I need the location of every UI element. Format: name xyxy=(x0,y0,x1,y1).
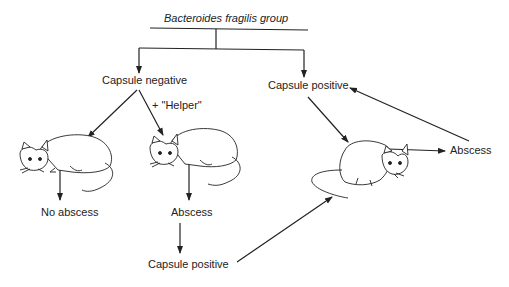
mouse-middle-icon xyxy=(150,129,240,186)
arrow-to-middle-mouse xyxy=(139,90,163,135)
arrow-to-abscess-right xyxy=(388,149,445,151)
label-no-abscess: No abscess xyxy=(41,206,98,218)
mouse-left-icon xyxy=(20,135,113,192)
label-abscess-right: Abscess xyxy=(450,144,492,156)
diagram-title: Bacteroides fragilis group xyxy=(164,12,288,24)
tree-branch xyxy=(139,48,304,50)
label-capsule-positive-top: Capsule positive xyxy=(268,79,349,91)
label-abscess-middle: Abscess xyxy=(171,206,213,218)
arrow-feedback-to-capsule-positive xyxy=(350,88,469,141)
arrow-top-to-right-mouse xyxy=(308,97,348,142)
title-underline xyxy=(150,28,308,30)
arrow-to-left-mouse xyxy=(88,90,137,137)
label-capsule-positive-bottom: Capsule positive xyxy=(148,258,229,270)
diagram-canvas xyxy=(0,0,509,287)
label-capsule-negative: Capsule negative xyxy=(102,74,187,86)
arrow-bottom-to-right-mouse xyxy=(237,197,332,262)
label-helper: + "Helper" xyxy=(152,99,202,111)
